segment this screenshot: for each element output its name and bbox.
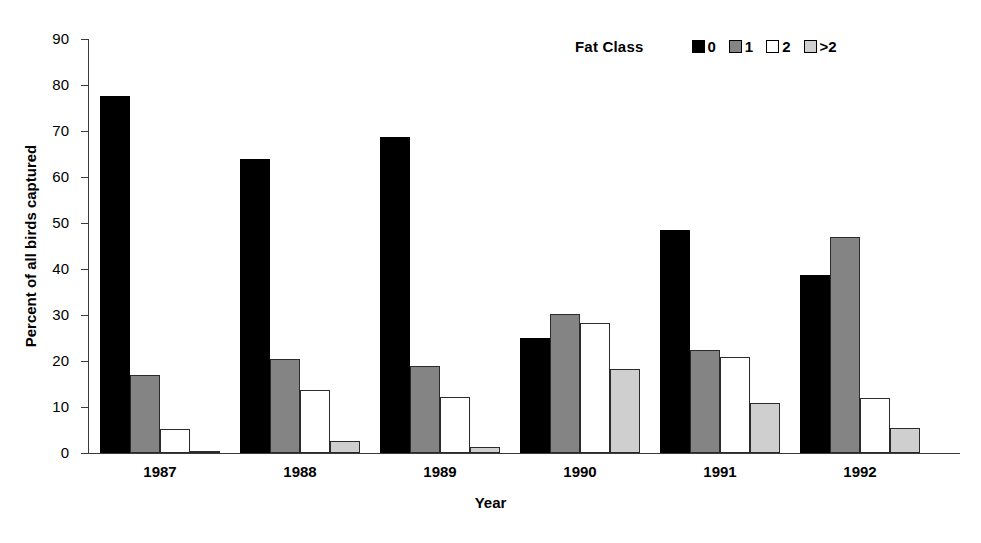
y-axis-tick-label: 50 (52, 213, 69, 233)
y-axis-tick: 50 (81, 223, 88, 224)
y-axis-tick: 80 (81, 85, 88, 86)
y-axis-tick-label: 90 (52, 29, 69, 49)
bar-1991-class-1 (690, 350, 720, 453)
bar-1989-class-gt2 (470, 447, 500, 453)
y-axis-tick: 70 (81, 131, 88, 132)
y-axis-tick-label: 60 (52, 167, 69, 187)
bar-1989-class-0 (380, 137, 410, 453)
x-axis-tick-label: 1992 (800, 463, 920, 480)
y-axis-tick: 0 (81, 453, 88, 454)
y-axis-tick-label: 30 (52, 305, 69, 325)
bar-group (240, 39, 360, 453)
bar-1987-class-gt2 (190, 451, 220, 453)
bar-1990-class-2 (580, 323, 610, 453)
y-axis-tick-label: 10 (52, 397, 69, 417)
y-axis-tick-label: 80 (52, 75, 69, 95)
bar-1991-class-gt2 (750, 403, 780, 453)
bar-1992-class-0 (800, 275, 830, 453)
y-axis-tick: 40 (81, 269, 88, 270)
plot-area: 0102030405060708090 19871988198919901991… (88, 39, 960, 453)
y-axis-tick-label: 0 (61, 443, 69, 463)
y-axis-tick: 20 (81, 361, 88, 362)
bar-1991-class-2 (720, 357, 750, 453)
y-axis-line (88, 39, 89, 453)
x-axis-title: Year (0, 494, 981, 511)
y-axis-title: Percent of all birds captured (22, 46, 44, 446)
bar-1990-class-gt2 (610, 369, 640, 453)
bar-1988-class-2 (300, 390, 330, 453)
bar-1992-class-gt2 (890, 428, 920, 453)
bar-1990-class-0 (520, 338, 550, 453)
y-axis-tick-label: 70 (52, 121, 69, 141)
x-axis-tick-label: 1987 (100, 463, 220, 480)
x-axis-tick-label: 1989 (380, 463, 500, 480)
bar-1990-class-1 (550, 314, 580, 453)
y-axis-tick: 30 (81, 315, 88, 316)
bar-group (380, 39, 500, 453)
bar-1992-class-2 (860, 398, 890, 453)
bar-group (100, 39, 220, 453)
bar-group (520, 39, 640, 453)
x-axis-tick-label: 1988 (240, 463, 360, 480)
bar-group (800, 39, 920, 453)
bar-1992-class-1 (830, 237, 860, 453)
bar-chart-figure: Fat Class 0 1 2 >2 Percent of all birds … (0, 0, 981, 543)
x-axis-tick-label: 1990 (520, 463, 640, 480)
bar-1988-class-0 (240, 159, 270, 453)
x-axis-line (88, 453, 960, 454)
bar-1991-class-0 (660, 230, 690, 453)
bar-1989-class-1 (410, 366, 440, 453)
x-axis-tick-label: 1991 (660, 463, 780, 480)
bar-1988-class-1 (270, 359, 300, 453)
y-axis-tick: 90 (81, 39, 88, 40)
bar-1987-class-1 (130, 375, 160, 453)
bar-1989-class-2 (440, 397, 470, 453)
y-axis-tick: 10 (81, 407, 88, 408)
bar-1988-class-gt2 (330, 441, 360, 453)
bar-1987-class-2 (160, 429, 190, 453)
y-axis-tick-label: 20 (52, 351, 69, 371)
y-axis-tick-label: 40 (52, 259, 69, 279)
bar-group (660, 39, 780, 453)
bar-1987-class-0 (100, 96, 130, 453)
y-axis-tick: 60 (81, 177, 88, 178)
